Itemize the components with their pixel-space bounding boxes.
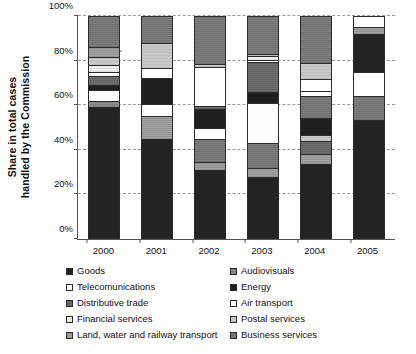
x-axis-tick-label-2001: 2001 <box>140 241 172 256</box>
bar-segment <box>194 109 226 128</box>
legend-swatch-postal-icon <box>230 316 237 323</box>
bar-segment <box>353 72 385 97</box>
bar-segment <box>88 90 120 101</box>
bar-segment <box>247 62 279 92</box>
y-axis-title-line-2: handled by the Commission <box>19 56 31 199</box>
bar-segment <box>194 128 226 139</box>
x-axis-tick-label-2003: 2003 <box>246 241 278 256</box>
bar-segment <box>300 91 332 97</box>
x-axis-tick-label-2000: 2000 <box>87 241 119 256</box>
bar-segment <box>247 92 279 103</box>
legend-swatch-energy-icon <box>230 284 237 291</box>
bar-segment <box>88 16 120 47</box>
bar-segment <box>300 118 332 136</box>
legend-swatch-business-icon <box>230 332 237 339</box>
bar-column-2002[interactable] <box>194 16 226 239</box>
bar-group <box>78 16 395 239</box>
plot-area: 0%20%40%60%80%100% <box>77 16 395 240</box>
bar-segment <box>194 170 226 239</box>
x-axis-tick-label-2005: 2005 <box>352 241 384 256</box>
x-axis-labels: 200020012002200320042005 <box>77 241 394 259</box>
legend-item-business[interactable]: Business services <box>230 327 396 343</box>
legend-swatch-air-icon <box>230 300 237 307</box>
bar-segment <box>300 79 332 91</box>
bar-column-2004[interactable] <box>300 16 332 239</box>
bar-segment <box>247 168 279 177</box>
legend-label: Distributive trade <box>77 297 148 309</box>
bar-segment <box>247 56 279 59</box>
legend-label: Goods <box>77 265 105 277</box>
legend-item-land[interactable]: Land, water and railway transport <box>66 327 224 343</box>
legend-label: Air transport <box>241 297 293 309</box>
bar-segment <box>141 104 173 116</box>
bar-column-2003[interactable] <box>247 16 279 239</box>
bar-segment <box>88 101 120 108</box>
bar-segment <box>300 63 332 79</box>
legend-swatch-audiovisuals-icon <box>230 268 237 275</box>
y-axis-title-text: Share in total cases handled by the Comm… <box>6 56 32 199</box>
y-axis-title-line-1: Share in total cases <box>6 77 18 178</box>
bar-segment <box>88 107 120 239</box>
y-axis-tick-label: 20% <box>54 178 73 189</box>
legend-item-energy[interactable]: Energy <box>230 279 396 295</box>
legend-swatch-telecom-icon <box>66 284 73 291</box>
bar-segment <box>141 68 173 78</box>
bar-segment <box>88 76 120 85</box>
bar-segment <box>353 120 385 239</box>
bar-segment <box>194 64 226 67</box>
bar-segment <box>247 60 279 62</box>
y-axis-tick-label: 60% <box>54 89 73 100</box>
bar-segment <box>300 154 332 164</box>
bar-segment <box>141 139 173 239</box>
bar-segment <box>300 141 332 154</box>
y-axis-tick-label: 80% <box>54 44 73 55</box>
chart-legend: GoodsAudiovisualsTelecomunicationsEnergy… <box>66 263 396 349</box>
bar-segment <box>353 34 385 72</box>
bar-segment <box>194 162 226 170</box>
bar-segment <box>247 143 279 168</box>
legend-item-telecom[interactable]: Telecomunications <box>66 279 224 295</box>
bar-segment <box>88 65 120 72</box>
bar-segment <box>300 16 332 63</box>
bar-column-2000[interactable] <box>88 16 120 239</box>
bar-column-2001[interactable] <box>141 16 173 239</box>
y-axis-tick-label: 100% <box>49 0 73 11</box>
legend-item-goods[interactable]: Goods <box>66 263 224 279</box>
bar-segment <box>141 116 173 138</box>
bar-segment <box>88 57 120 65</box>
bar-segment <box>88 72 120 76</box>
legend-label: Energy <box>241 281 271 293</box>
legend-swatch-goods-icon <box>66 268 73 275</box>
bar-segment <box>88 85 120 89</box>
bar-segment <box>300 96 332 117</box>
x-axis-tick-label-2004: 2004 <box>299 241 331 256</box>
bar-segment <box>247 177 279 239</box>
bar-segment <box>141 16 173 43</box>
bar-segment <box>194 106 226 108</box>
bar-segment <box>353 27 385 34</box>
legend-label: Audiovisuals <box>241 265 294 277</box>
legend-item-air[interactable]: Air transport <box>230 295 396 311</box>
bar-segment <box>300 164 332 239</box>
bar-segment <box>194 139 226 162</box>
legend-label: Financial services <box>77 313 153 325</box>
bar-segment <box>141 43 173 69</box>
y-axis-title: Share in total cases handled by the Comm… <box>2 14 36 240</box>
bar-segment <box>353 16 385 27</box>
bar-segment <box>353 96 385 119</box>
bar-segment <box>194 67 226 106</box>
legend-item-financial[interactable]: Financial services <box>66 311 224 327</box>
bar-segment <box>247 16 279 54</box>
legend-swatch-land-icon <box>66 332 73 339</box>
legend-label: Postal services <box>241 313 305 325</box>
legend-item-audiovisuals[interactable]: Audiovisuals <box>230 263 396 279</box>
legend-swatch-distrib-icon <box>66 300 73 307</box>
scan-artifact <box>120 50 122 52</box>
bar-segment <box>141 78 173 104</box>
legend-item-postal[interactable]: Postal services <box>230 311 396 327</box>
y-axis-tick-label: 0% <box>59 223 73 234</box>
legend-item-distrib[interactable]: Distributive trade <box>66 295 224 311</box>
stacked-bar-chart: Share in total cases handled by the Comm… <box>0 0 416 354</box>
bar-column-2005[interactable] <box>353 16 385 239</box>
bar-segment <box>247 103 279 143</box>
